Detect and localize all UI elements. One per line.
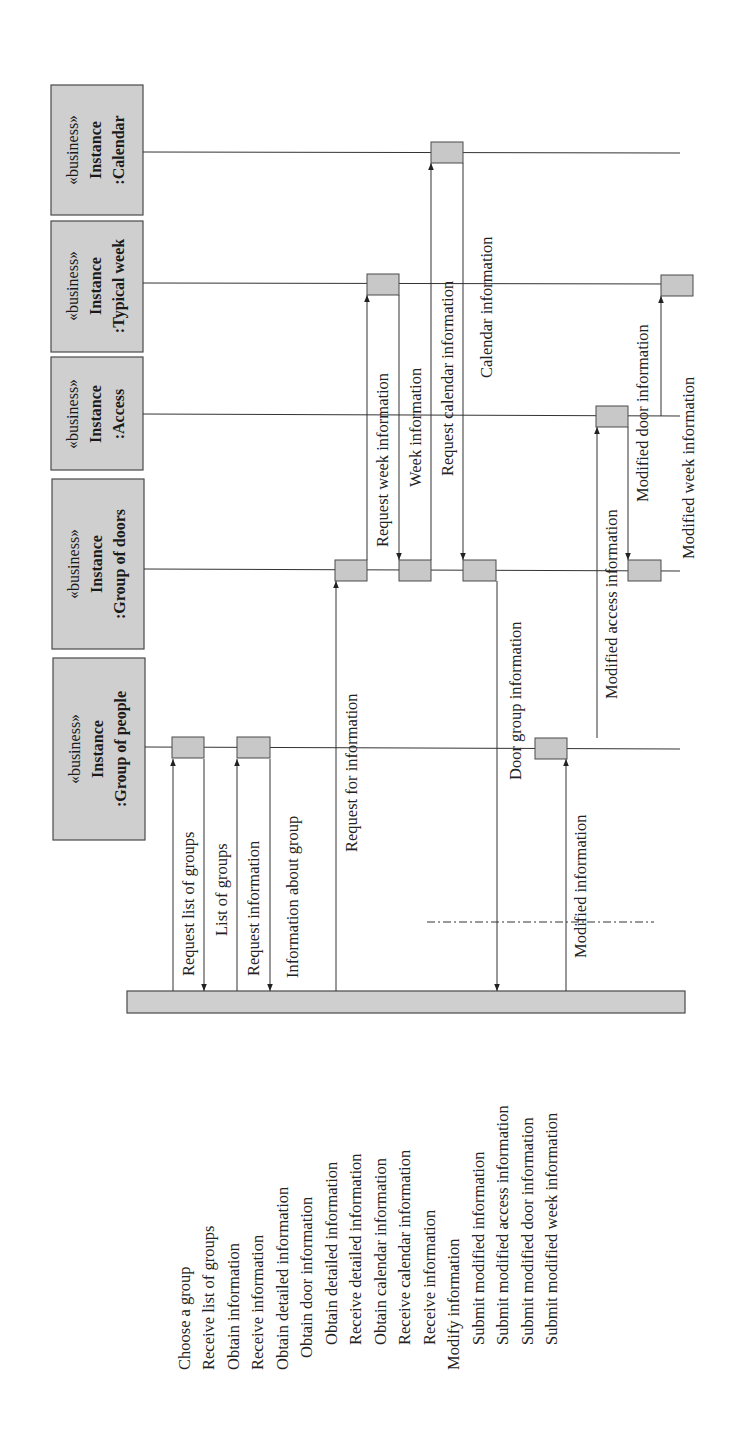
actor-stereotype: «business»	[64, 379, 81, 449]
activation-doors-3	[463, 560, 496, 581]
actor-kind: Instance	[87, 257, 104, 315]
actor-stereotype: «business»	[66, 714, 83, 784]
actor-name: :Typical week	[110, 239, 128, 333]
message-label: Request for information	[342, 693, 361, 852]
actor-name: :Calendar	[110, 115, 127, 184]
activation-doors-2	[399, 560, 431, 581]
activity-item: Obtain door information	[297, 1197, 316, 1358]
actor-kind: Instance	[89, 720, 106, 778]
actor-name: :Access	[110, 389, 127, 440]
actor-kind: Instance	[87, 121, 104, 179]
activation-typical-week-1	[367, 274, 399, 295]
activity-item: Choose a group	[175, 1266, 194, 1370]
message-label: Request list of groups	[179, 832, 198, 976]
activities-list: Choose a group Receive list of groups Ob…	[175, 1105, 561, 1370]
message-label: Modified information	[571, 815, 590, 958]
activation-people-3	[535, 738, 567, 759]
activity-item: Submit modified week information	[542, 1113, 561, 1345]
activation-people-2	[237, 737, 270, 758]
message-label: Request week information	[373, 373, 392, 547]
actor-typical-week: «business» Instance :Typical week	[51, 221, 143, 352]
activity-item: Submit modified door information	[518, 1117, 537, 1345]
activation-doors-1	[335, 560, 367, 581]
activity-item: Receive list of groups	[199, 1226, 218, 1370]
actor-stereotype: «business»	[64, 251, 81, 321]
activity-item: Receive detailed information	[346, 1153, 365, 1345]
activity-item: Receive information	[420, 1210, 439, 1345]
actor-group-of-doors: «business» Instance :Group of doors	[52, 479, 144, 649]
activity-item: Receive calendar information	[395, 1150, 414, 1345]
activity-item: Obtain detailed information	[273, 1187, 292, 1370]
message-label: Request calendar information	[438, 281, 457, 476]
lifeline-group-of-people	[145, 747, 680, 749]
lifeline-typical-week	[143, 283, 680, 284]
message-label: Request information	[244, 841, 263, 976]
activity-item: Receive information	[248, 1235, 267, 1370]
message-label: Modified week information	[679, 377, 698, 559]
activity-item: Modify information	[444, 1238, 463, 1370]
lifeline-calendar	[143, 152, 680, 153]
message-label: Calendar information	[477, 236, 496, 378]
activity-item: Obtain detailed information	[322, 1162, 341, 1345]
message-label: Modified access information	[602, 509, 621, 699]
system-activation-bar	[127, 991, 685, 1013]
activity-item: Submit modified access information	[493, 1105, 512, 1345]
actor-access: «business» Instance :Access	[51, 357, 143, 470]
message-label: List of groups	[212, 843, 231, 936]
message-label: Information about group	[283, 816, 302, 978]
actor-group-of-people: «business» Instance :Group of people	[53, 658, 145, 840]
activation-people-1	[172, 737, 204, 758]
message-label: Door group information	[506, 621, 525, 780]
activation-typical-week-2	[661, 275, 693, 296]
actor-kind: Instance	[87, 385, 104, 443]
actor-stereotype: «business»	[64, 115, 81, 185]
message-label: Week information	[406, 368, 425, 487]
activation-doors-4	[628, 560, 661, 581]
activation-calendar	[431, 142, 463, 163]
activity-item: Obtain calendar information	[371, 1158, 390, 1345]
actor-calendar: «business» Instance :Calendar	[51, 85, 143, 215]
actor-kind: Instance	[88, 535, 105, 593]
message-labels: Request list of groups List of groups Re…	[179, 236, 698, 978]
activity-item: Submit modified information	[469, 1152, 488, 1345]
activation-access	[596, 406, 628, 427]
actor-name: :Group of people	[112, 691, 130, 807]
actor-name: :Group of doors	[111, 509, 129, 619]
sequence-diagram: «business» Instance :Calendar «business»…	[0, 0, 733, 1449]
activity-item: Obtain information	[224, 1243, 243, 1370]
actor-stereotype: «business»	[65, 529, 82, 599]
message-label: Modified door information	[633, 324, 652, 502]
